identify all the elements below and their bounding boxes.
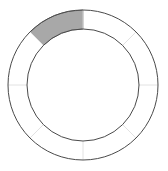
ring-dividers-group (8, 10, 158, 160)
ring-chart (0, 0, 168, 171)
segmented-ring-widget (0, 0, 168, 171)
ring-inner-edge (27, 29, 139, 141)
